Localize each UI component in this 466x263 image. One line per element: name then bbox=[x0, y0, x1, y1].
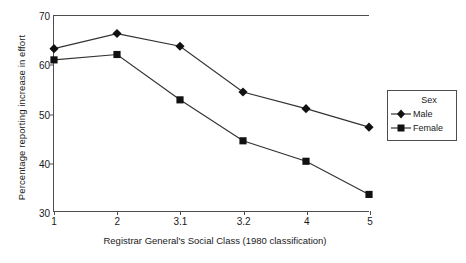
x-tick-mark bbox=[54, 211, 55, 215]
y-tick-mark bbox=[50, 163, 54, 164]
data-point-diamond bbox=[112, 29, 121, 38]
legend-label-female: Female bbox=[413, 123, 443, 133]
data-point-square bbox=[365, 191, 372, 198]
series-female bbox=[50, 51, 372, 198]
chart-figure: Percentage reporting increase in effort … bbox=[0, 0, 466, 263]
data-point-square bbox=[113, 51, 120, 58]
x-tick-mark bbox=[307, 211, 308, 215]
data-point-square bbox=[50, 56, 57, 63]
series-line bbox=[54, 34, 369, 128]
y-axis-title: Percentage reporting increase in effort bbox=[16, 13, 27, 223]
legend-title: Sex bbox=[388, 95, 456, 105]
x-tick-mark bbox=[244, 211, 245, 215]
data-point-square bbox=[239, 137, 246, 144]
series-line bbox=[54, 55, 369, 195]
series-layer bbox=[54, 16, 369, 211]
data-point-diamond bbox=[364, 123, 373, 132]
legend-entry-male[interactable]: Male bbox=[388, 107, 456, 121]
data-point-diamond bbox=[49, 44, 58, 53]
y-tick-label: 70 bbox=[39, 11, 50, 22]
x-tick-mark bbox=[370, 211, 371, 215]
data-point-diamond bbox=[175, 42, 184, 51]
y-tick-mark bbox=[50, 65, 54, 66]
x-tick-label: 3.2 bbox=[237, 216, 251, 227]
legend-label-male: Male bbox=[413, 109, 433, 119]
plot-area: 3040506070123.13.245 bbox=[53, 15, 369, 212]
x-tick-mark bbox=[117, 211, 118, 215]
x-tick-mark bbox=[180, 211, 181, 215]
x-tick-label: 2 bbox=[114, 216, 120, 227]
square-marker-icon bbox=[391, 122, 411, 134]
y-tick-mark bbox=[50, 114, 54, 115]
x-tick-label: 4 bbox=[304, 216, 310, 227]
diamond-marker-icon bbox=[391, 108, 411, 120]
x-tick-label: 1 bbox=[51, 216, 57, 227]
legend-entry-female[interactable]: Female bbox=[388, 121, 456, 135]
x-tick-label: 5 bbox=[367, 216, 373, 227]
data-point-diamond bbox=[238, 87, 247, 96]
data-point-square bbox=[302, 158, 309, 165]
data-point-diamond bbox=[301, 104, 310, 113]
data-point-square bbox=[176, 96, 183, 103]
legend: Sex Male Female bbox=[387, 90, 457, 141]
series-male bbox=[49, 29, 373, 132]
x-tick-label: 3.1 bbox=[173, 216, 187, 227]
y-tick-label: 40 bbox=[39, 158, 50, 169]
y-tick-label: 30 bbox=[39, 208, 50, 219]
x-axis-title: Registrar General's Social Class (1980 c… bbox=[50, 235, 380, 246]
y-tick-label: 50 bbox=[39, 109, 50, 120]
y-tick-label: 60 bbox=[39, 60, 50, 71]
